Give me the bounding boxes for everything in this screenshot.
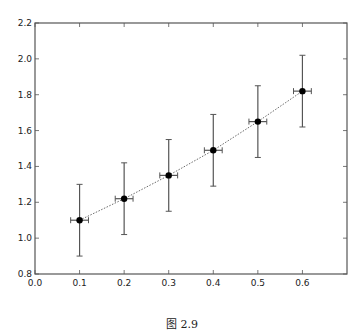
x-tick-label: 0.5 xyxy=(251,278,265,288)
figure-caption: 图 2.9 xyxy=(0,315,364,331)
y-tick-label: 2.2 xyxy=(18,18,32,28)
y-tick-label: 0.8 xyxy=(18,269,33,279)
marker xyxy=(299,88,305,94)
x-tick-label: 0.4 xyxy=(206,278,221,288)
y-axis: 0.81.01.21.41.61.82.02.2 xyxy=(18,18,347,279)
marker xyxy=(121,196,127,202)
axes-box xyxy=(35,23,347,274)
errorbar-chart: 0.00.10.20.30.40.50.6 0.81.01.21.41.61.8… xyxy=(0,0,364,310)
x-tick-label: 0.2 xyxy=(117,278,131,288)
y-tick-label: 1.8 xyxy=(18,90,33,100)
y-tick-label: 1.2 xyxy=(18,197,32,207)
data-point xyxy=(160,140,178,212)
plot-frame xyxy=(35,23,347,274)
y-tick-label: 1.6 xyxy=(18,126,33,136)
trend-line xyxy=(80,91,303,220)
x-tick-label: 0.1 xyxy=(72,278,86,288)
x-tick-label: 0.6 xyxy=(295,278,310,288)
marker xyxy=(210,147,216,153)
data-point xyxy=(294,55,312,127)
x-tick-label: 0.0 xyxy=(28,278,43,288)
y-tick-label: 2.0 xyxy=(18,54,33,64)
y-tick-label: 1.4 xyxy=(18,161,33,171)
marker xyxy=(166,172,172,178)
marker xyxy=(76,217,82,223)
y-tick-label: 1.0 xyxy=(18,233,33,243)
marker xyxy=(255,118,261,124)
x-tick-label: 0.3 xyxy=(162,278,176,288)
data-point xyxy=(115,163,133,235)
data-point xyxy=(204,114,222,186)
data-series xyxy=(71,55,312,256)
data-point xyxy=(249,86,267,158)
data-point xyxy=(71,184,89,256)
